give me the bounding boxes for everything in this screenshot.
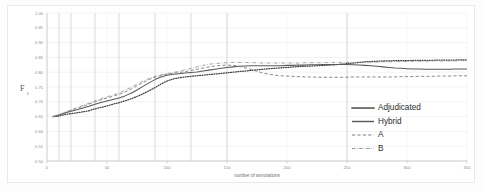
x-tick-label-150: 150 (224, 165, 232, 170)
legend-label-a: A (378, 130, 384, 139)
legend-label-adjudicated: Adjudicated (378, 103, 421, 112)
chart-container: 1.000.950.900.850.800.750.700.650.600.55… (0, 0, 483, 191)
x-tick-label-50: 50 (105, 165, 110, 170)
legend-label-hybrid: Hybrid (378, 117, 402, 126)
y-tick-label-0.95: 0.95 (35, 25, 44, 30)
legend-label-b: B (378, 144, 384, 153)
y-tick-label-0.70: 0.70 (35, 99, 44, 104)
x-tick-label-0: 0 (46, 165, 49, 170)
y-tick-label-0.80: 0.80 (35, 70, 44, 75)
x-tick-label-200: 200 (284, 165, 292, 170)
y-axis-title-subscript: 1 (27, 91, 30, 96)
y-axis-title: F (20, 84, 25, 93)
y-tick-label-1.00: 1.00 (35, 11, 44, 16)
x-axis-title: number of annotations (234, 173, 280, 178)
y-tick-label-0.75: 0.75 (35, 85, 44, 90)
x-tick-label-100: 100 (164, 165, 172, 170)
y-tick-label-0.60: 0.60 (35, 129, 44, 134)
f1-vs-annotations-line-chart: 1.000.950.900.850.800.750.700.650.600.55… (0, 0, 483, 191)
y-tick-label-0.90: 0.90 (35, 40, 44, 45)
x-tick-label-250: 250 (344, 165, 352, 170)
y-tick-label-0.65: 0.65 (35, 114, 44, 119)
x-tick-label-300: 300 (404, 165, 412, 170)
y-tick-label-0.85: 0.85 (35, 55, 44, 60)
x-tick-label-350: 350 (464, 165, 472, 170)
y-tick-label-0.55: 0.55 (35, 144, 44, 149)
y-tick-label-0.50: 0.50 (35, 159, 44, 164)
